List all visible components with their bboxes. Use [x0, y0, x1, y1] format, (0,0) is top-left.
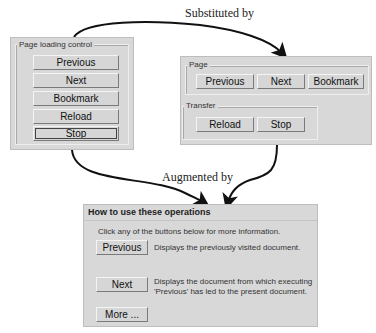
- page-previous-button[interactable]: Previous: [196, 74, 254, 89]
- bookmark-button[interactable]: Bookmark: [33, 91, 119, 106]
- help-next-description-line2: 'Previous' has led to the present docume…: [154, 287, 307, 297]
- page-loading-control-legend: Page loading control: [17, 40, 94, 49]
- transfer-group-legend: Transfer: [184, 101, 218, 110]
- help-panel: How to use these operations Click any of…: [83, 204, 318, 327]
- more-button[interactable]: More ...: [96, 307, 148, 322]
- caption-augmented-by: Augmented by: [162, 170, 233, 185]
- reload-button[interactable]: Reload: [33, 109, 119, 124]
- transfer-stop-button[interactable]: Stop: [257, 117, 305, 132]
- page-bookmark-button[interactable]: Bookmark: [308, 74, 364, 89]
- help-next-description-line1: Displays the document from which executi…: [154, 277, 312, 287]
- page-next-button[interactable]: Next: [257, 74, 305, 89]
- help-previous-button[interactable]: Previous: [96, 240, 148, 255]
- help-next-button[interactable]: Next: [96, 277, 148, 292]
- stop-button[interactable]: Stop: [33, 126, 119, 141]
- page-group-legend: Page: [187, 60, 210, 69]
- help-intro-text: Click any of the buttons below for more …: [98, 227, 280, 237]
- caption-substituted-by: Substituted by: [185, 6, 254, 21]
- help-panel-title: How to use these operations: [84, 205, 317, 221]
- help-previous-description: Displays the previously visited document…: [154, 243, 300, 253]
- split-control-panel: Page Previous Next Bookmark Transfer Rel…: [180, 56, 372, 145]
- previous-button[interactable]: Previous: [33, 55, 119, 70]
- transfer-reload-button[interactable]: Reload: [196, 117, 254, 132]
- page-loading-control-panel: Page loading control Previous Next Bookm…: [10, 37, 134, 150]
- next-button[interactable]: Next: [33, 73, 119, 88]
